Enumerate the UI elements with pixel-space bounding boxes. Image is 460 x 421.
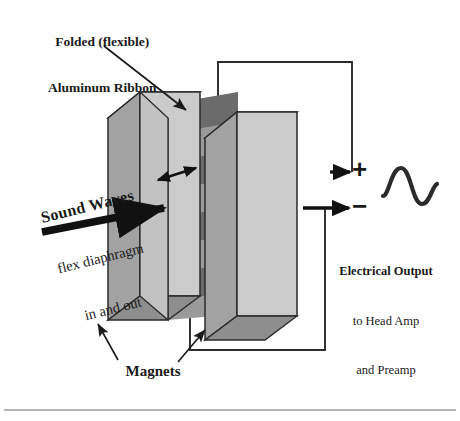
- positive-terminal-symbol: +: [352, 155, 367, 184]
- electrical-output-label: Electrical Output to Head Amp and Preamp: [320, 228, 452, 413]
- ribbon-microphone-diagram: Folded (flexible) Aluminum Ribbon Sound …: [0, 0, 460, 421]
- ribbon-label: Folded (flexible) Aluminum Ribbon: [48, 4, 156, 125]
- sound-waves-label-line3: in and out: [24, 278, 203, 337]
- ribbon-label-line1: Folded (flexible): [48, 34, 156, 49]
- sound-waves-label-line2: flex diaphragm: [11, 228, 190, 287]
- magnets-label: Magnets: [88, 363, 218, 380]
- electrical-output-line3: and Preamp: [320, 363, 452, 377]
- sound-waves-label-line1: Sound Waves: [0, 176, 177, 237]
- output-waveform: [383, 168, 437, 204]
- electrical-output-line1: Electrical Output: [320, 264, 452, 278]
- negative-terminal-symbol: −: [352, 192, 367, 221]
- electrical-output-line2: to Head Amp: [320, 314, 452, 328]
- ribbon-label-line2: Aluminum Ribbon: [48, 80, 156, 95]
- right-magnet: [205, 112, 297, 340]
